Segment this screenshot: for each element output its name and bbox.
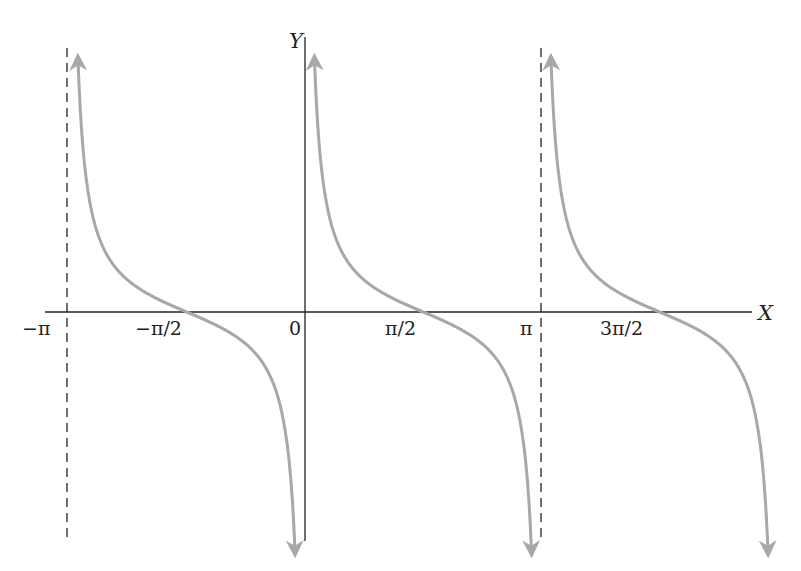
x-axis-label: X <box>756 301 774 325</box>
cot-branch-1 <box>78 56 295 554</box>
tick-label-zero: 0 <box>289 317 301 339</box>
cot-branch-2 <box>314 56 531 554</box>
cot-branch-3 <box>551 56 768 554</box>
cotangent-plot: Y X −π −π/2 0 π/2 π 3π/2 <box>0 0 801 571</box>
tick-label-pi: π <box>520 317 533 339</box>
y-axis-label: Y <box>289 29 305 53</box>
tick-label-half-pi: π/2 <box>385 317 416 339</box>
tick-label-three-half-pi: 3π/2 <box>600 317 643 339</box>
tick-label-neg-half-pi: −π/2 <box>135 317 182 339</box>
tick-label-neg-pi: −π <box>22 317 50 339</box>
